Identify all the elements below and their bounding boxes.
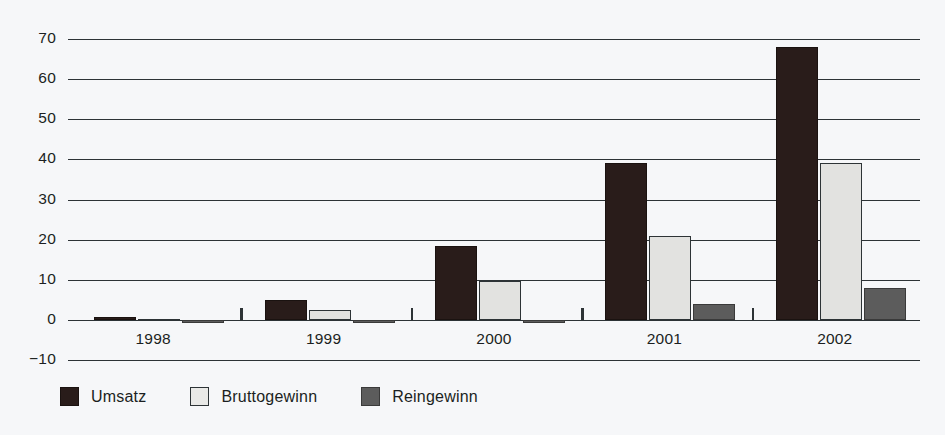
y-tick-label: 0: [0, 310, 56, 328]
bar-umsatz-2001: [605, 163, 647, 320]
gridline--10: [68, 360, 920, 361]
legend-swatch-umsatz: [60, 387, 79, 406]
bar-reingewinn-2002: [864, 288, 906, 320]
legend-swatch-bruttogewinn: [190, 387, 209, 406]
y-tick-label: 70: [0, 29, 56, 47]
bar-bruttogewinn-2000: [479, 281, 521, 320]
legend-label-bruttogewinn: Bruttogewinn: [221, 388, 317, 406]
bar-reingewinn-1998: [182, 320, 224, 323]
plot-area: [68, 39, 920, 360]
legend-item-reingewinn: Reingewinn: [361, 387, 478, 406]
bar-bruttogewinn-2002: [820, 163, 862, 319]
bar-umsatz-1999: [265, 300, 307, 320]
y-tick-label: 60: [0, 69, 56, 87]
y-tick-label: 50: [0, 109, 56, 127]
legend-swatch-reingewinn: [361, 387, 380, 406]
bar-bruttogewinn-1998: [138, 319, 180, 321]
x-axis-label-1998: 1998: [68, 330, 238, 348]
y-tick-label: 30: [0, 190, 56, 208]
x-axis-label-2000: 2000: [409, 330, 579, 348]
y-axis-tick-labels: 706050403020100−10: [0, 0, 56, 435]
x-axis-separator-tick: [752, 308, 754, 320]
x-axis-label-1999: 1999: [238, 330, 408, 348]
chart-legend: Umsatz Bruttogewinn Reingewinn: [60, 387, 522, 406]
legend-item-umsatz: Umsatz: [60, 387, 146, 406]
y-tick-label: −10: [0, 350, 56, 368]
gridline-70: [68, 39, 920, 40]
x-axis-separator-tick: [581, 308, 583, 320]
bar-bruttogewinn-2001: [649, 236, 691, 320]
bar-reingewinn-1999: [353, 320, 395, 324]
x-axis-label-2001: 2001: [579, 330, 749, 348]
chart-page: 706050403020100−10 Umsatz Bruttogewinn R…: [0, 0, 945, 435]
legend-label-umsatz: Umsatz: [91, 388, 146, 406]
y-tick-label: 40: [0, 149, 56, 167]
legend-item-bruttogewinn: Bruttogewinn: [190, 387, 317, 406]
bar-reingewinn-2001: [693, 304, 735, 320]
x-axis-separator-tick: [240, 308, 242, 320]
x-axis-label-2002: 2002: [750, 330, 920, 348]
bar-umsatz-2000: [435, 246, 477, 320]
bar-umsatz-1998: [94, 317, 136, 320]
bar-bruttogewinn-1999: [309, 310, 351, 320]
x-axis-separator-tick: [411, 308, 413, 320]
y-tick-label: 20: [0, 230, 56, 248]
y-tick-label: 10: [0, 270, 56, 288]
bar-reingewinn-2000: [523, 320, 565, 323]
bar-umsatz-2002: [776, 47, 818, 320]
legend-label-reingewinn: Reingewinn: [392, 388, 478, 406]
